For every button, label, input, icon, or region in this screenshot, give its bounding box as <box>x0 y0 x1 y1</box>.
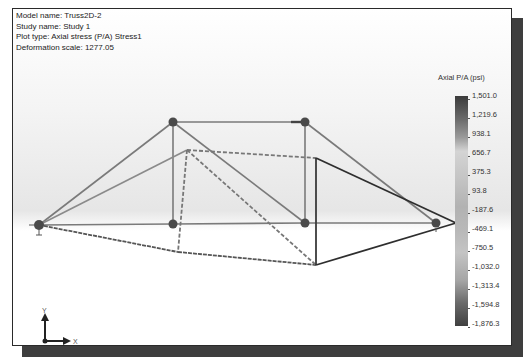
legend-tick: -1,594.8 <box>472 300 500 309</box>
legend-title: Axial P/A (psi) <box>438 73 485 82</box>
truss-nodes <box>34 118 441 231</box>
x-axis-label: X <box>73 338 78 345</box>
y-axis-label: Y <box>42 307 47 314</box>
legend-tick: 1,219.6 <box>472 110 497 119</box>
node-2 <box>169 118 178 127</box>
undeformed-truss <box>39 122 436 225</box>
coordinate-triad-icon: Y X <box>31 307 81 346</box>
legend-tick: 656.7 <box>472 148 491 157</box>
fixture-icon <box>29 225 436 235</box>
legend-tick: 93.8 <box>472 186 487 195</box>
legend-tick: -1,876.3 <box>472 319 500 328</box>
truss-plot <box>13 9 512 346</box>
legend-tick: -750.5 <box>472 243 493 252</box>
node-4 <box>169 220 178 229</box>
legend-tick: 938.1 <box>472 129 491 138</box>
legend-tick: -1,032.0 <box>472 262 500 271</box>
node-5 <box>301 219 310 228</box>
legend-tick: 1,501.0 <box>472 91 497 100</box>
legend-tick: -1,313.4 <box>472 281 500 290</box>
legend-tick: 375.3 <box>472 167 491 176</box>
legend-tick: -187.6 <box>472 205 493 214</box>
node-6 <box>432 219 441 228</box>
node-3 <box>301 118 310 127</box>
color-bar <box>455 96 468 326</box>
node-1 <box>34 220 44 230</box>
legend-tick: -469.1 <box>472 224 493 233</box>
graphics-viewport[interactable]: Model name: Truss2D-2 Study name: Study … <box>12 8 512 346</box>
